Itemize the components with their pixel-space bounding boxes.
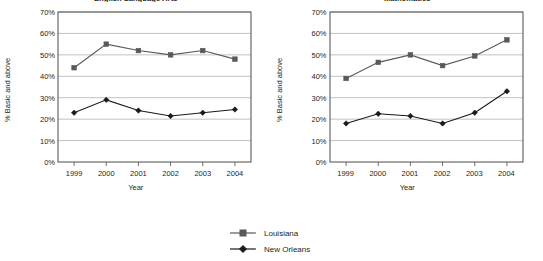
x-axis-tick-label: 2003: [194, 169, 211, 178]
y-axis-tick-label: 20%: [311, 115, 326, 124]
x-axis-tick-label: 2002: [162, 169, 179, 178]
plot-lines: [58, 12, 251, 162]
x-axis-tick-label: 2003: [466, 169, 483, 178]
y-axis-tick-label: 60%: [40, 29, 55, 38]
chart-panel-mathematics: Mathematics % Basic and above 0%10%20%30…: [272, 0, 543, 200]
y-axis-tick-label: 40%: [40, 72, 55, 81]
legend-item-louisiana: Louisiana: [228, 227, 298, 239]
x-axis-tick-label: 2000: [369, 169, 386, 178]
x-axis-tick-label: 2002: [434, 169, 451, 178]
legend-marker-diamond-icon: [228, 243, 258, 255]
chart-panels: English Language Arts % Basic and above …: [0, 0, 543, 200]
x-axis-label: Year: [272, 183, 543, 192]
y-axis-tick-label: 10%: [311, 136, 326, 145]
y-axis-tick-label: 30%: [311, 93, 326, 102]
x-axis-tick-label: 2004: [227, 169, 244, 178]
x-axis-tick-label: 2001: [402, 169, 419, 178]
y-axis-tick-label: 10%: [40, 136, 55, 145]
x-axis-label: Year: [0, 183, 272, 192]
y-axis-tick-label: 60%: [311, 29, 326, 38]
plot-area: 0%10%20%30%40%50%60%70%19992000200120022…: [58, 12, 251, 162]
y-axis-tick-label: 50%: [311, 50, 326, 59]
chart-title: English Language Arts: [0, 0, 272, 2]
x-axis-tick-label: 1999: [66, 169, 83, 178]
y-axis-label: % Basic and above: [1, 30, 13, 150]
chart-title: Mathematics: [272, 0, 543, 2]
x-axis-tick-label: 2000: [98, 169, 115, 178]
legend-item-new-orleans: New Orleans: [228, 243, 310, 255]
y-axis-tick-label: 0%: [316, 158, 327, 167]
legend-label: New Orleans: [264, 245, 310, 254]
y-axis-label: % Basic and above: [273, 30, 285, 150]
y-axis-tick-label: 30%: [40, 93, 55, 102]
x-axis-tick-label: 1999: [337, 169, 354, 178]
figure: English Language Arts % Basic and above …: [0, 0, 543, 261]
y-axis-tick-label: 0%: [44, 158, 55, 167]
legend-label: Louisiana: [264, 229, 298, 238]
chart-panel-english-language-arts: English Language Arts % Basic and above …: [0, 0, 272, 200]
plot-lines: [330, 12, 523, 162]
legend-marker-square-icon: [228, 227, 258, 239]
plot-area: 0%10%20%30%40%50%60%70%19992000200120022…: [330, 12, 523, 162]
chart-legend: Louisiana New Orleans: [0, 227, 543, 255]
y-axis-tick-label: 40%: [311, 72, 326, 81]
y-axis-tick-label: 20%: [40, 115, 55, 124]
y-axis-tick-label: 70%: [40, 8, 55, 17]
x-axis-tick-label: 2001: [130, 169, 147, 178]
y-axis-tick-label: 50%: [40, 50, 55, 59]
y-axis-tick-label: 70%: [311, 8, 326, 17]
x-axis-tick-label: 2004: [498, 169, 515, 178]
